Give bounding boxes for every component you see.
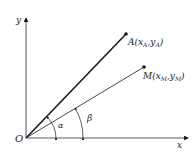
- point-a: [124, 32, 128, 36]
- angle-beta-arc: [75, 108, 83, 138]
- angle-alpha-arc: [47, 117, 56, 138]
- angle-alpha-label: α: [58, 121, 64, 130]
- coordinate-diagram: y x O A(xA,yA) M(xM,yM) α β: [0, 0, 196, 152]
- angle-beta-label: β: [86, 113, 92, 123]
- line-oa: [26, 34, 126, 138]
- y-axis-label: y: [15, 15, 22, 25]
- x-axis-label: x: [177, 140, 182, 150]
- point-a-label: A(xA,yA): [127, 37, 164, 48]
- origin-label: O: [15, 133, 23, 144]
- point-m-label: M(xM,yM): [142, 71, 185, 82]
- point-m: [142, 65, 146, 69]
